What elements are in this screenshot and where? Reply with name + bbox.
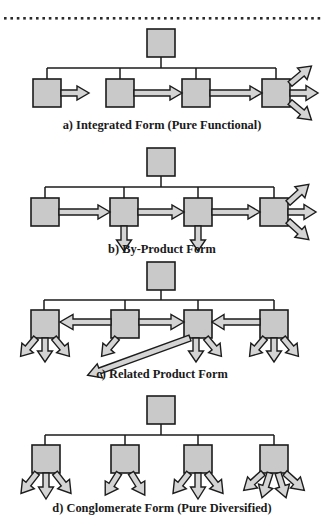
panel-a-transfer-3-4 <box>210 86 262 100</box>
panel-a-head-node <box>147 29 175 57</box>
panel-d-head-node <box>147 396 175 424</box>
panel-d-tree-connector <box>45 424 274 445</box>
panel-a-tree-connector <box>47 57 276 79</box>
panel-d-division-4 <box>260 445 288 473</box>
panel-c-division-2 <box>111 310 139 338</box>
panel-c-caption: c) Related Product Form <box>96 367 228 381</box>
panel-b-head-node <box>147 148 175 176</box>
dotted-top-rule <box>4 17 320 20</box>
panel-a-division-2 <box>106 79 134 107</box>
panel-c-division-4 <box>260 310 288 338</box>
panel-c-d4-output-down <box>267 338 282 362</box>
panel-c-division-3 <box>184 310 212 338</box>
panel-d-d1-output-down <box>39 473 54 499</box>
panel-c-tree-connector <box>44 290 274 310</box>
panel-b-division-1 <box>31 198 59 226</box>
panel-b-caption: b) By-Product Form <box>108 242 217 256</box>
panel-b-output-right <box>288 205 316 220</box>
panel-d-caption: d) Conglomerate Form (Pure Diversified) <box>52 501 271 515</box>
panel-c-transfer-2-to-1 <box>60 315 111 330</box>
panel-a-transfer-2-3 <box>134 86 182 100</box>
panel-d-division-1 <box>32 445 60 473</box>
panel-a-division-1 <box>33 79 61 107</box>
panel-b-division-3 <box>184 198 212 226</box>
panel-a-integrated-form: a) Integrated Form (Pure Functional) <box>33 29 318 132</box>
organization-forms-diagram: a) Integrated Form (Pure Functional) <box>0 0 325 527</box>
panel-b-transfer-3-4 <box>212 205 260 219</box>
panel-b-tree-connector <box>45 176 274 198</box>
panel-a-output-right <box>290 86 318 101</box>
panel-c-head-node <box>147 262 175 290</box>
panel-a-division-4 <box>262 79 290 107</box>
panel-b-transfer-1-2 <box>59 205 110 219</box>
panel-b-division-2 <box>110 198 138 226</box>
panel-d-division-3 <box>184 445 212 473</box>
panel-c-division-1 <box>31 310 59 338</box>
panel-c-related-product-form: c) Related Product Form <box>15 262 304 382</box>
panel-d-division-2 <box>111 445 139 473</box>
panel-d-conglomerate-form: d) Conglomerate Form (Pure Diversified) <box>15 396 309 515</box>
panel-a-division-3 <box>182 79 210 107</box>
panel-a-transfer-1-2 <box>61 86 89 100</box>
panel-b-by-product-form: b) By-Product Form <box>31 148 316 256</box>
panel-c-transfer-2-rightward <box>139 315 184 330</box>
panel-c-transfer-4-to-3 <box>212 315 260 330</box>
panel-c-d1-output-down <box>38 338 53 362</box>
panel-b-transfer-2-3 <box>138 205 184 219</box>
panel-d-d3-output-down <box>191 473 206 499</box>
panel-a-caption: a) Integrated Form (Pure Functional) <box>63 118 262 132</box>
panel-b-division-4 <box>260 198 288 226</box>
